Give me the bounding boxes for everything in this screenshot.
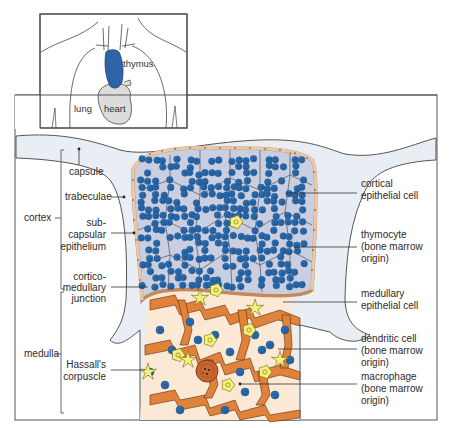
thymus-diagram: thymus lung heart: [0, 0, 450, 428]
label-dendritic-cell: dendritic cell (bone marrow origin): [361, 333, 423, 368]
svg-text:macrophage: macrophage: [361, 371, 417, 382]
svg-text:origin): origin): [361, 253, 389, 264]
label-capsule: capsule: [69, 166, 104, 177]
svg-text:dendritic cell: dendritic cell: [361, 333, 417, 344]
svg-text:(bone marrow: (bone marrow: [361, 383, 423, 394]
svg-text:junction: junction: [71, 293, 106, 304]
svg-text:origin): origin): [361, 357, 389, 368]
svg-text:epithelial cell: epithelial cell: [361, 300, 418, 311]
label-cortical-epithelial-cell: cortical epithelial cell: [361, 178, 418, 201]
label-hassalls-corpuscle: Hassall's corpuscle: [63, 359, 106, 382]
svg-text:(bone marrow: (bone marrow: [361, 345, 423, 356]
label-cortex: cortex: [24, 212, 51, 223]
svg-text:corpuscle: corpuscle: [63, 371, 106, 382]
svg-text:origin): origin): [361, 395, 389, 406]
inset-label-lung: lung: [74, 103, 92, 114]
inset-label-thymus: thymus: [123, 58, 154, 69]
svg-text:cortico-: cortico-: [73, 271, 106, 282]
svg-text:capsular: capsular: [68, 229, 106, 240]
label-medullary-epithelial-cell: medullary epithelial cell: [361, 288, 418, 311]
svg-text:cortical: cortical: [361, 178, 393, 189]
svg-text:epithelial cell: epithelial cell: [361, 190, 418, 201]
svg-text:thymocyte: thymocyte: [361, 229, 407, 240]
label-trabeculae: trabeculae: [65, 191, 112, 202]
chest-inset: thymus lung heart: [40, 14, 187, 128]
svg-text:(bone marrow: (bone marrow: [361, 241, 423, 252]
hassalls-corpuscle: [196, 360, 218, 382]
svg-text:Hassall's: Hassall's: [66, 359, 106, 370]
label-macrophage: macrophage (bone marrow origin): [361, 371, 423, 406]
svg-text:medullary: medullary: [63, 282, 106, 293]
label-medulla: medulla: [24, 348, 59, 359]
label-corticomedullary-junction: cortico- medullary junction: [63, 271, 106, 304]
label-thymocyte: thymocyte (bone marrow origin): [361, 229, 423, 264]
label-subcapsular-epithelium: sub- capsular epithelium: [60, 217, 106, 252]
inset-label-heart: heart: [104, 103, 126, 114]
svg-text:sub-: sub-: [87, 217, 106, 228]
svg-text:medullary: medullary: [361, 288, 404, 299]
svg-text:epithelium: epithelium: [60, 241, 106, 252]
